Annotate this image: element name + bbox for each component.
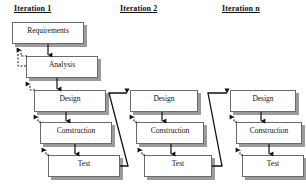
phase-box-construction-iteration-2[interactable]: Construction: [136, 122, 204, 144]
phase-label: Requirements: [13, 27, 83, 35]
phase-box-test-iteration-2[interactable]: Test: [144, 155, 212, 177]
phase-label: Design: [35, 95, 105, 103]
phase-label: Design: [231, 95, 295, 103]
phase-label: Construction: [41, 127, 111, 135]
phase-box-test-iteration-n[interactable]: Test: [242, 155, 304, 177]
phase-label: Design: [131, 95, 197, 103]
phase-box-requirements-iteration-1[interactable]: Requirements: [12, 22, 84, 44]
phase-label: Test: [145, 160, 211, 168]
phase-box-analysis-iteration-1[interactable]: Analysis: [26, 56, 98, 78]
phase-box-construction-iteration-n[interactable]: Construction: [236, 122, 302, 144]
phase-box-design-iteration-2[interactable]: Design: [130, 90, 198, 112]
phase-label: Analysis: [27, 61, 97, 69]
phase-box-test-iteration-1[interactable]: Test: [48, 155, 120, 177]
phase-box-design-iteration-n[interactable]: Design: [230, 90, 296, 112]
phase-box-design-iteration-1[interactable]: Design: [34, 90, 106, 112]
phase-label: Test: [49, 160, 119, 168]
phase-label: Construction: [237, 127, 301, 135]
phase-label: Test: [243, 160, 303, 168]
phase-box-construction-iteration-1[interactable]: Construction: [40, 122, 112, 144]
iterative-development-diagram: Iteration 1 Iteration 2 Iteration n Requ…: [0, 0, 306, 190]
phase-label: Construction: [137, 127, 203, 135]
